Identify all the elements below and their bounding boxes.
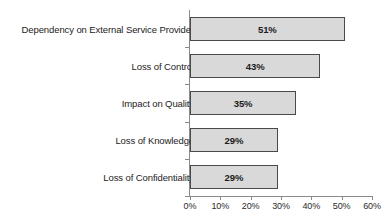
value-axis-tick xyxy=(220,196,221,200)
value-axis-tick xyxy=(311,196,312,200)
value-axis-tick-label: 50% xyxy=(327,201,357,211)
bar-value-label: 43% xyxy=(246,60,265,71)
bar: 29% xyxy=(190,128,278,152)
bar: 29% xyxy=(190,165,278,189)
bars-container: 51%43%35%29%29% xyxy=(190,10,372,196)
category-label: Loss of Knowledge xyxy=(115,135,194,146)
bar-value-label: 29% xyxy=(225,135,244,146)
category-label: Loss of Confidentiality xyxy=(103,172,194,183)
bar-value-label: 51% xyxy=(258,23,277,34)
bar: 35% xyxy=(190,91,296,115)
bar-value-label: 29% xyxy=(225,172,244,183)
value-axis-tick xyxy=(190,196,191,200)
value-axis-tick xyxy=(372,196,373,200)
bar: 43% xyxy=(190,54,320,78)
value-axis-tick xyxy=(281,196,282,200)
value-axis-tick-label: 30% xyxy=(266,201,296,211)
value-axis-tick xyxy=(342,196,343,200)
category-label: Impact on Quality xyxy=(122,98,194,109)
bar-chart: Dependency on External Service ProviderL… xyxy=(0,0,389,223)
value-axis-tick-label: 60% xyxy=(357,201,387,211)
value-axis-tick xyxy=(251,196,252,200)
value-axis-tick-label: 40% xyxy=(296,201,326,211)
category-label: Loss of Control xyxy=(132,61,194,72)
value-axis-tick-label: 20% xyxy=(236,201,266,211)
value-axis-tick-label: 0% xyxy=(175,201,205,211)
category-label: Dependency on External Service Provider xyxy=(22,24,194,35)
value-axis-tick-label: 10% xyxy=(205,201,235,211)
bar: 51% xyxy=(190,17,345,41)
bar-value-label: 35% xyxy=(234,98,253,109)
